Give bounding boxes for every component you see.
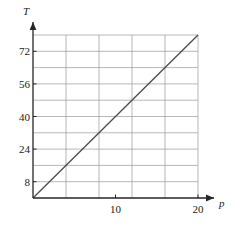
x-tick-label: 20 bbox=[183, 203, 213, 215]
horizontal-gridlines bbox=[33, 35, 198, 182]
x-axis-arrow-icon bbox=[206, 195, 214, 202]
chart-figure: T p 824405672 1020 bbox=[0, 0, 235, 230]
y-tick-label-wrap: 8 bbox=[4, 176, 30, 188]
y-tick-label: 72 bbox=[8, 45, 30, 57]
y-tick-label: 8 bbox=[8, 176, 30, 188]
y-tick-label: 56 bbox=[8, 78, 30, 90]
y-tick-label-wrap: 56 bbox=[4, 78, 30, 90]
y-tick-label: 40 bbox=[8, 111, 30, 123]
y-axis-arrow-icon bbox=[30, 22, 37, 30]
x-tick-label-wrap: 20 bbox=[183, 203, 213, 216]
x-tick-label: 10 bbox=[101, 203, 131, 215]
tick-marks bbox=[33, 51, 198, 198]
x-tick-label-wrap: 10 bbox=[101, 203, 131, 216]
y-tick-label-wrap: 72 bbox=[4, 45, 30, 57]
y-tick-label-wrap: 24 bbox=[4, 143, 30, 155]
chart-plot-area bbox=[0, 0, 235, 230]
y-tick-label: 24 bbox=[8, 143, 30, 155]
x-axis-label: p bbox=[219, 197, 225, 209]
y-axis-label: T bbox=[23, 5, 29, 17]
y-tick-label-wrap: 40 bbox=[4, 111, 30, 123]
